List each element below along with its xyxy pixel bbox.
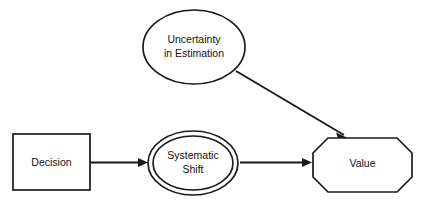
- edge-decision-to-systematic-shift: [90, 158, 148, 167]
- node-decision-label: Decision: [31, 156, 71, 168]
- diagram-svg: Decision Systematic Shift Value Uncertai…: [0, 0, 426, 212]
- arrowhead-icon: [138, 158, 148, 167]
- node-uncertainty-in-estimation[interactable]: Uncertainty in Estimation: [143, 10, 245, 84]
- node-value-label: Value: [349, 157, 375, 169]
- node-uncertainty-label-line-1: Uncertainty: [167, 33, 221, 45]
- edge-systematic-shift-to-value: [240, 158, 312, 167]
- node-systematic-shift-label-line-1: Systematic: [167, 149, 218, 161]
- edge-uncertainty-to-value: [236, 71, 352, 145]
- node-systematic-shift-label-line-2: Shift: [182, 163, 203, 175]
- node-decision[interactable]: Decision: [13, 134, 90, 190]
- node-value[interactable]: Value: [313, 138, 412, 192]
- node-systematic-shift[interactable]: Systematic Shift: [148, 131, 238, 195]
- node-uncertainty-label-line-2: in Estimation: [164, 47, 224, 59]
- arrowhead-icon: [302, 158, 312, 167]
- edge-line: [236, 71, 344, 135]
- diagram-canvas: Decision Systematic Shift Value Uncertai…: [0, 0, 426, 212]
